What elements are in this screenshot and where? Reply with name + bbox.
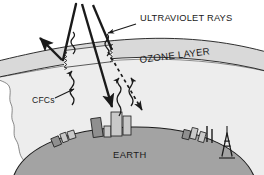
uv-callout-leader (108, 24, 136, 33)
building (111, 112, 122, 136)
building (123, 116, 131, 135)
cfcs-label: CFCs (32, 95, 55, 105)
building (91, 117, 104, 137)
ultraviolet-rays-label: ULTRAVIOLET RAYS (140, 13, 232, 23)
building (104, 126, 111, 137)
earth-label: EARTH (113, 149, 147, 160)
ozone-diagram: ULTRAVIOLET RAYS CFCs OZONE LAYER EARTH (0, 0, 264, 175)
